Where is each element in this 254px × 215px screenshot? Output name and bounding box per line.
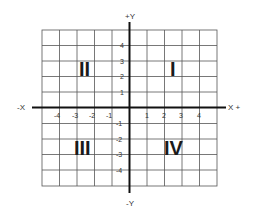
svg-text:3: 3 [179,112,183,119]
quadrant-2-label: II [79,58,90,80]
negative-x-label: -X [17,103,26,112]
quadrant-1-label: I [170,58,176,80]
svg-text:4: 4 [120,42,124,49]
svg-text:1: 1 [120,89,124,96]
x-tick-labels: -4 -3 -2 -1 1 2 3 4 [54,112,201,119]
quadrant-4-label: IV [164,137,184,159]
svg-text:3: 3 [120,58,124,65]
svg-text:-2: -2 [89,112,95,119]
positive-x-label: X + [228,103,241,112]
svg-text:4: 4 [197,112,201,119]
svg-text:-4: -4 [54,112,60,119]
svg-text:2: 2 [162,112,166,119]
svg-text:-4: -4 [116,167,122,174]
quadrant-3-label: III [74,137,91,159]
svg-text:2: 2 [120,73,124,80]
svg-text:-1: -1 [116,120,122,127]
svg-text:1: 1 [145,112,149,119]
positive-y-label: +Y [125,12,136,21]
svg-text:-3: -3 [116,151,122,158]
negative-y-label: -Y [126,199,135,208]
svg-text:-2: -2 [116,136,122,143]
svg-text:-1: -1 [106,112,112,119]
svg-text:-3: -3 [72,112,78,119]
coordinate-plane: +Y -Y X + -X -4 -3 -2 -1 1 2 3 4 4 3 2 1… [0,0,254,215]
